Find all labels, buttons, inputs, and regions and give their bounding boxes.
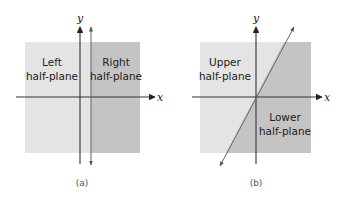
x-axis-label: x bbox=[157, 91, 164, 104]
panel-b: x y Upper half-plane Lower half-plane (b… bbox=[192, 12, 331, 188]
left-region-label-line1: Left bbox=[42, 56, 62, 68]
lower-region-label-line2: half-plane bbox=[259, 125, 311, 137]
upper-region-label-line2: half-plane bbox=[199, 70, 251, 82]
upper-region-label-line1: Upper bbox=[209, 56, 241, 68]
panel-a: x y Left half-plane Right half-plane (a) bbox=[16, 12, 164, 188]
right-region-label-line2: half-plane bbox=[90, 70, 142, 82]
y-axis-label: y bbox=[252, 12, 260, 25]
caption-b: (b) bbox=[250, 178, 263, 188]
half-planes-figure: x y Left half-plane Right half-plane (a)… bbox=[0, 0, 345, 202]
right-region-label-line1: Right bbox=[102, 56, 130, 68]
left-region-label-line2: half-plane bbox=[26, 70, 78, 82]
x-axis-label: x bbox=[324, 91, 331, 104]
caption-a: (a) bbox=[76, 178, 89, 188]
y-axis-label: y bbox=[76, 12, 84, 25]
lower-region-label-line1: Lower bbox=[269, 111, 301, 123]
